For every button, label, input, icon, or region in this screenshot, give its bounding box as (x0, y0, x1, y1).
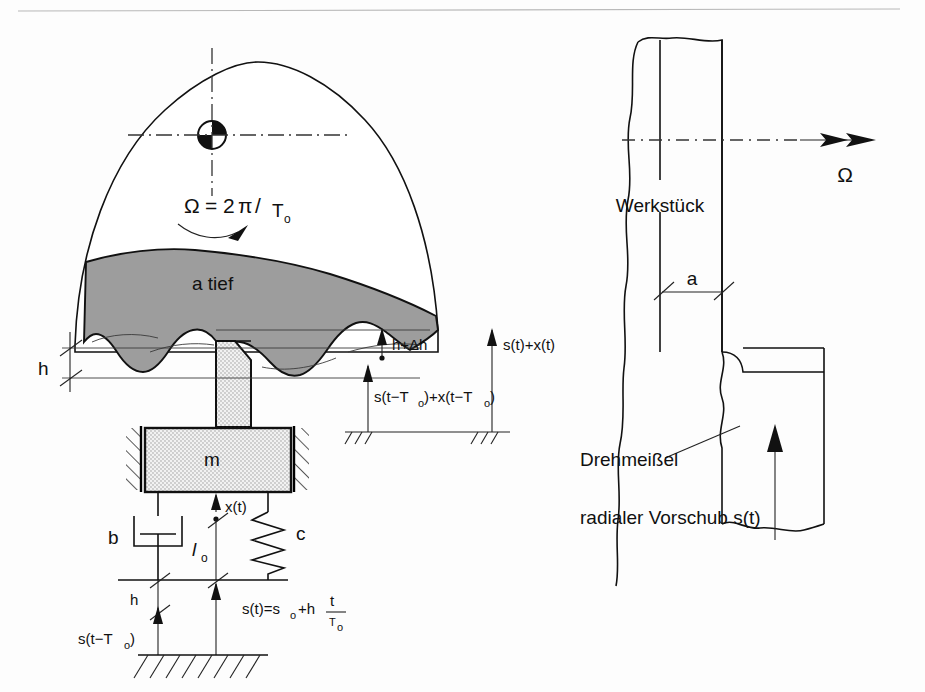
feed-arrow-head (767, 424, 783, 452)
spring-coil (252, 512, 284, 580)
omega-symbol: Ω (184, 194, 200, 217)
depth-label: a tief (192, 273, 234, 294)
damper-group: b (108, 492, 182, 580)
omega-label: Ω (837, 163, 853, 186)
feed-h-label: h (130, 591, 138, 608)
s-prev-label-a: s(t−T (374, 388, 409, 405)
left-diagram: Ω = 2 π / T o a tief h (38, 48, 555, 678)
x-of-t-group: x(t) l o (192, 493, 247, 588)
x-of-t-arrow-head (211, 493, 221, 510)
left-wall-hatch (126, 428, 140, 490)
feed-prev-label-b: ) (130, 630, 135, 647)
feed-prev-label-a: s(t−T (78, 630, 113, 647)
feed-formula-a: s(t)=s (242, 600, 280, 617)
workpiece-left-break (616, 42, 638, 586)
datum-hatch-right (471, 432, 498, 444)
omega-slash: / (255, 194, 261, 217)
s-now-arrow-head (487, 328, 497, 346)
datum-hatch-left (345, 432, 372, 444)
l0-label: l (192, 539, 197, 560)
feed-formula-group: s(t)=s o +h t T o (242, 592, 346, 633)
a-tick-left (654, 282, 674, 300)
a-label: a (687, 268, 698, 289)
ground-hatch (134, 655, 260, 678)
feed-now-group (211, 582, 221, 655)
mass-label: m (204, 449, 220, 470)
tool-label: Drehmeißel (580, 449, 678, 470)
l0-tick-top (208, 513, 228, 528)
spring-label: c (296, 523, 306, 544)
feed-formula-denominator-sub: o (337, 621, 343, 633)
h-delta-dim-dot (379, 355, 384, 360)
feed-label: radialer Vorschub s(t) (580, 507, 761, 528)
tool-front-face (720, 352, 723, 524)
feed-prev-arrow-head (153, 606, 163, 624)
feed-formula-numerator: t (330, 592, 335, 609)
h-label: h (38, 358, 49, 379)
l0-subscript: o (201, 551, 208, 565)
feed-formula-s0-sub: o (290, 609, 296, 621)
scan-edge-line (18, 9, 900, 11)
h-delta-label: h+Δh (392, 336, 427, 353)
s-prev-label-group: s(t−T o )+x(t−T o ) (374, 388, 495, 409)
a-tick-right (714, 282, 734, 300)
s-prev-dimension-group: s(t−T o )+x(t−T o ) (363, 364, 495, 432)
omega-T-subscript: o (284, 212, 291, 226)
workpiece-label: Werkstück (616, 195, 705, 216)
feed-arrow-group: radialer Vorschub s(t) (580, 424, 783, 540)
right-diagram: Ω Werkstück a Drehmeißel radialer Vorsch… (580, 38, 876, 586)
s-now-label: s(t)+x(t) (503, 336, 555, 353)
mass-block-group: m (126, 426, 309, 492)
feed-formula-b: +h (298, 600, 315, 617)
omega-pi: π (238, 194, 253, 217)
right-wall-hatch (295, 428, 309, 490)
tool-top-rake (722, 352, 824, 372)
damper-label: b (108, 527, 119, 548)
figure-canvas: Ω = 2 π / T o a tief h (0, 0, 925, 692)
omega-T: T (272, 200, 284, 221)
spring-group: c (252, 492, 306, 580)
s-prev-arrow-head (363, 364, 373, 382)
omega-equals: = 2 (205, 194, 235, 217)
s-prev-label-b: )+x(t−T (424, 388, 472, 405)
omega-arrow-group: Ω (800, 133, 876, 186)
feed-formula-denominator: T (329, 616, 336, 628)
tool-shank (216, 341, 251, 427)
x-of-t-label: x(t) (225, 498, 247, 515)
feed-prev-group: s(t−T o ) (78, 606, 163, 655)
s-prev-label-c: ) (490, 388, 495, 405)
s-now-dimension-group: s(t)+x(t) (487, 328, 555, 432)
